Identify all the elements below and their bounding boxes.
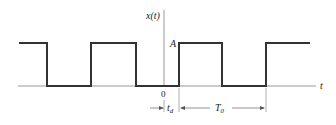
amplitude-label: A bbox=[169, 38, 177, 49]
y-axis-label: x(t) bbox=[145, 10, 161, 22]
pulse-train-diagram: x(t) A t 0 td T0 bbox=[0, 0, 336, 125]
td-arrowhead-icon bbox=[159, 106, 164, 110]
period-label: T0 bbox=[215, 102, 225, 115]
delay-label: td bbox=[167, 102, 174, 115]
t-axis-label: t bbox=[320, 80, 323, 91]
period-arrowhead-right-icon bbox=[260, 106, 265, 110]
period-arrowhead-left-icon bbox=[180, 106, 185, 110]
origin-label: 0 bbox=[161, 89, 166, 99]
